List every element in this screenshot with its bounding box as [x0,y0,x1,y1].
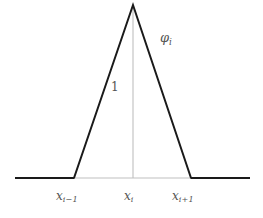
height-label-one: 1 [111,81,119,93]
figure-canvas [0,0,263,218]
tick-label-x-i-minus-1: xi−1 [56,190,78,204]
hat-function-figure: φi 1 xi−1 xi xi+1 [0,0,263,218]
function-label-phi-symbol: φ [160,30,169,45]
tick-label-x-i-plus-1: xi+1 [172,190,194,204]
function-label-phi: φi [160,31,172,46]
tick-label-x-i-symbol: x [124,189,131,203]
tick-label-x-i-plus-1-symbol: x [172,189,179,203]
tick-label-x-i: xi [124,190,134,204]
tick-label-x-i-minus-1-subscript: i−1 [63,194,78,204]
tick-label-x-i-minus-1-symbol: x [56,189,63,203]
tick-label-x-i-plus-1-subscript: i+1 [179,194,194,204]
function-label-phi-subscript: i [169,37,172,47]
tick-label-x-i-subscript: i [131,194,134,204]
